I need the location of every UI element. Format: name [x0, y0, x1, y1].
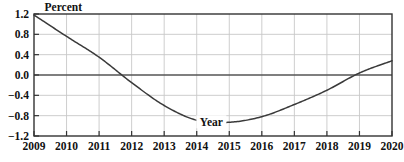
x-tick-label: 2019 [348, 140, 371, 152]
y-axis-label: Percent [45, 1, 83, 13]
x-tick-label: 2011 [88, 140, 111, 152]
x-tick-label: 2009 [23, 140, 46, 152]
x-tick-label: 2014 [185, 140, 208, 152]
y-tick-label: −0.8 [8, 110, 29, 122]
y-tick-label: 0.0 [15, 69, 30, 81]
y-tick-label: 1.2 [15, 8, 30, 20]
y-tick-label: 0.8 [15, 28, 30, 40]
y-tick-label: −0.4 [8, 89, 29, 101]
x-tick-label: 2017 [283, 140, 306, 152]
x-axis-label: Year [200, 116, 223, 128]
x-tick-label: 2015 [218, 140, 241, 152]
x-axis-label-annotation: Year [196, 115, 226, 128]
line-chart: 1.20.80.40.0−0.4−0.8−1.2 200920102011201… [0, 0, 404, 162]
x-tick-label: 2013 [153, 140, 176, 152]
x-tick-label: 2020 [381, 140, 404, 152]
chart-container: 1.20.80.40.0−0.4−0.8−1.2 200920102011201… [0, 0, 404, 162]
x-tick-label: 2010 [55, 140, 78, 152]
x-tick-label: 2018 [315, 140, 338, 152]
y-tick-label: 0.4 [15, 49, 30, 61]
x-tick-label: 2012 [120, 140, 143, 152]
x-tick-label: 2016 [250, 140, 273, 152]
